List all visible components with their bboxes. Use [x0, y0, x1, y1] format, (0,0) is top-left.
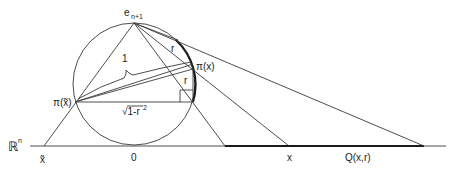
label-x: x: [287, 152, 292, 163]
label-sqrt-sup: 2: [143, 104, 147, 111]
stereographic-projection-diagram: e n+1 π(x) π(x̃) r r 1 √1-r 2 ℝ n x̃ 0 x…: [0, 0, 456, 173]
line-to-x-tilde: [44, 23, 134, 146]
line-to-q-right: [134, 23, 424, 146]
brace-one: [78, 62, 191, 99]
label-q: Q(x,r): [345, 152, 371, 163]
label-sqrt: √1-r: [122, 106, 140, 117]
radius-line-2: [75, 69, 193, 102]
label-one: 1: [122, 53, 128, 64]
label-e: e: [124, 7, 130, 18]
label-x-tilde: x̃: [40, 154, 45, 165]
label-r-upper: r: [171, 43, 175, 54]
label-pi-x: π(x): [196, 61, 215, 72]
label-origin: 0: [131, 152, 137, 163]
radius-line-1: [75, 64, 193, 102]
label-r-lower: r: [184, 75, 188, 86]
label-pi-x-tilde: π(x̃): [53, 97, 72, 108]
label-e-sub: n+1: [131, 13, 143, 20]
label-rn-sup: n: [18, 137, 22, 144]
